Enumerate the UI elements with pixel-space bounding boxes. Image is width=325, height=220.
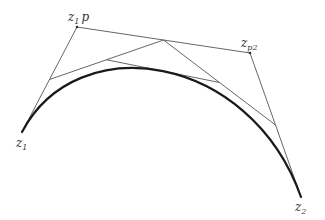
label-z1: z1 [15, 136, 27, 152]
control-point-z1p [76, 26, 79, 29]
label-z2: z2 [294, 200, 306, 216]
label-z1p: z1p [67, 10, 89, 26]
first-level-construction [50, 40, 276, 125]
bezier-curve [22, 68, 301, 197]
bezier-diagram: z1p zp2 z1 z2 [0, 0, 325, 220]
control-polygon [22, 27, 301, 197]
control-point-zp2 [249, 52, 252, 55]
label-zp2: zp2 [240, 36, 258, 52]
